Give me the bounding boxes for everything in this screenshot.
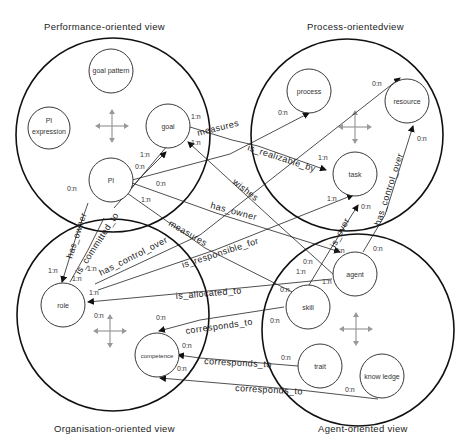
svg-text:goal: goal — [161, 123, 175, 131]
svg-text:1:n: 1:n — [72, 275, 82, 282]
svg-text:1:n: 1:n — [89, 289, 99, 296]
svg-text:0:n: 0:n — [280, 286, 290, 293]
node-process[interactable]: process — [287, 69, 331, 113]
svg-text:competence: competence — [141, 353, 174, 359]
move-icon-agent[interactable] — [339, 312, 373, 346]
svg-text:0:n: 0:n — [67, 185, 77, 192]
svg-text:0:n: 0:n — [281, 354, 291, 361]
svg-text:0:n: 0:n — [345, 386, 355, 393]
relation-label-corresponds-to-skill: corresponds_to — [185, 317, 253, 336]
svg-text:task: task — [349, 171, 362, 178]
relation-label-measures-goal: measures — [196, 118, 240, 138]
svg-text:agent: agent — [346, 271, 364, 279]
svg-text:process: process — [297, 88, 322, 96]
svg-text:PI: PI — [46, 117, 53, 124]
svg-text:1:n: 1:n — [87, 265, 97, 272]
node-pi[interactable]: PI — [89, 158, 133, 202]
view-title-process: Process-orientedview — [307, 21, 404, 32]
svg-text:0:n: 0:n — [303, 258, 313, 265]
svg-text:1:n: 1:n — [48, 267, 58, 274]
svg-text:1:n: 1:n — [191, 139, 201, 146]
svg-text:role: role — [57, 302, 69, 309]
svg-text:1:n: 1:n — [141, 196, 151, 203]
node-pi-expression[interactable]: PI expression — [28, 107, 70, 149]
view-title-performance: Performance-oriented view — [44, 21, 165, 32]
svg-text:0:n: 0:n — [182, 342, 192, 349]
process-view-circle — [251, 39, 443, 231]
move-icon-organisation[interactable] — [93, 314, 127, 348]
svg-text:0:n: 0:n — [270, 317, 280, 324]
svg-text:goal pattern: goal pattern — [93, 67, 130, 75]
svg-text:0:n: 0:n — [177, 365, 187, 372]
node-agent[interactable]: agent — [333, 252, 377, 296]
svg-text:0:n: 0:n — [156, 180, 166, 187]
svg-text:skill: skill — [302, 304, 314, 311]
svg-text:0:n: 0:n — [373, 245, 383, 252]
relation-label-is-allocated-to: is_allocated_to — [175, 285, 242, 301]
node-task[interactable]: task — [333, 152, 377, 196]
node-goal[interactable]: goal — [146, 104, 190, 148]
svg-text:trait: trait — [314, 363, 326, 370]
svg-text:1:n: 1:n — [322, 278, 332, 285]
svg-text:resource: resource — [393, 98, 420, 105]
svg-text:0:n: 0:n — [278, 109, 288, 116]
node-trait[interactable]: trait — [298, 344, 342, 388]
relation-label-has-control-over-role: has_control_over — [97, 235, 169, 278]
svg-text:1:n: 1:n — [140, 151, 150, 158]
move-icon-performance[interactable] — [95, 109, 129, 143]
node-skill[interactable]: skill — [286, 285, 330, 329]
node-role[interactable]: role — [41, 283, 85, 327]
view-title-agent: Agent-oriented view — [318, 423, 408, 434]
view-model-diagram: Performance-oriented view Process-orient… — [0, 0, 465, 448]
svg-text:PI: PI — [108, 177, 115, 184]
view-title-organisation: Organisation-oriented view — [54, 423, 175, 434]
svg-text:0:n: 0:n — [135, 163, 145, 170]
relation-label-corresponds-to-knowledge: corresponds_to — [235, 383, 303, 397]
svg-text:0:n: 0:n — [335, 247, 345, 254]
svg-text:0:n: 0:n — [94, 312, 104, 319]
svg-text:0:n: 0:n — [417, 135, 427, 142]
relation-label-is-over: is_over — [328, 216, 352, 249]
svg-text:0:n: 0:n — [361, 203, 371, 210]
svg-text:know ledge: know ledge — [364, 373, 400, 381]
node-competence[interactable]: competence — [135, 333, 179, 377]
svg-text:1:n: 1:n — [327, 195, 337, 202]
node-goal-pattern[interactable]: goal pattern — [89, 49, 133, 93]
node-resource[interactable]: resource — [385, 79, 429, 123]
move-icon-process[interactable] — [338, 110, 372, 144]
svg-text:1:n: 1:n — [296, 268, 306, 275]
svg-text:1:n: 1:n — [191, 113, 201, 120]
svg-text:expression: expression — [32, 128, 66, 136]
svg-text:0:n: 0:n — [156, 314, 166, 321]
relation-label-corresponds-to-trait: corresponds_to — [204, 356, 272, 370]
svg-text:0:n: 0:n — [372, 80, 382, 87]
node-knowledge[interactable]: know ledge — [360, 354, 404, 398]
svg-text:1:n: 1:n — [318, 154, 328, 161]
